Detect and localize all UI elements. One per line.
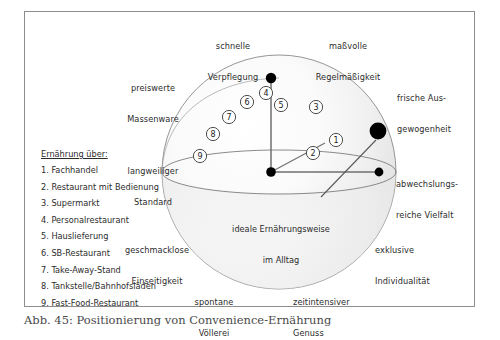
marker-9-label: 9 [197,152,202,161]
axis-label-line: frische Aus- [397,93,477,103]
ideal-position-label-line: ideale Ernährungsweise [201,224,361,234]
marker-2[interactable]: 2 [306,146,319,159]
axis-label-exklusive-individualitaet: exklusive Individualität [375,224,463,307]
marker-7[interactable]: 7 [222,110,235,123]
figure-frame: 1 2 3 4 5 6 7 8 [24,11,475,307]
axis-label-line: exklusive [375,245,463,255]
axis-label-line: Verpflegung [185,72,281,82]
legend-item-2: 2. Restaurant mit Bedienung [41,183,191,192]
legend-item-1: 1. Fachhandel [41,166,191,175]
right-axis-dot [375,168,384,177]
legend-title: Ernährung über: [41,149,191,159]
marker-1-label: 1 [333,136,338,145]
axis-label-massvolle-regelmaessigkeit: maßvolle Regelmäßigkeit [293,20,403,103]
axis-label-preiswerte-massenware: preiswerte Massenware [111,62,195,145]
legend-item-7: 7. Take-Away-Stand [41,266,191,275]
legend-item-8: 8. Tankstelle/Bahnhofsläden [41,282,191,291]
legend-item-5: 5. Hauslieferung [41,232,191,241]
marker-9[interactable]: 9 [193,149,206,162]
ideal-position-label: ideale Ernährungsweise im Alltag [201,203,361,286]
axis-label-line: schnelle [185,41,281,51]
ideal-position-label-line: im Alltag [201,255,361,265]
legend-item-9: 9. Fast-Food-Restaurant [41,299,191,308]
axis-label-line: preiswerte [111,83,195,93]
origin-dot [266,167,276,177]
legend: Ernährung über: 1. Fachhandel 2. Restaur… [41,149,191,315]
axis-label-line: Regelmäßigkeit [293,72,403,82]
axis-label-line: zeitintensiver [293,297,383,307]
axis-label-line: reiche Vielfalt [396,210,478,220]
legend-item-4: 4. Personalrestaurant [41,216,191,225]
marker-2-label: 2 [310,149,315,158]
axis-label-line: maßvolle [293,41,403,51]
axis-label-line: abwechslungs- [396,179,478,189]
axis-label-line: Genuss [293,328,383,338]
axis-label-line: Völlerei [175,328,253,338]
axis-label-frische-ausgewogenheit: frische Aus- gewogenheit [397,72,477,155]
axis-label-line: Individualität [375,276,463,286]
marker-8[interactable]: 8 [206,127,219,140]
legend-item-6: 6. SB-Restaurant [41,249,191,258]
legend-item-3: 3. Supermarkt [41,199,191,208]
marker-8-label: 8 [210,130,215,139]
figure-caption: Abb. 45: Positionierung von Convenience-… [24,313,331,327]
marker-1[interactable]: 1 [329,133,342,146]
marker-7-label: 7 [226,113,231,122]
axis-label-line: gewogenheit [397,124,477,134]
axis-label-line: Massenware [111,114,195,124]
marker-3-label: 3 [313,103,318,112]
axis-label-schnelle-verpflegung: schnelle Verpflegung [185,20,281,103]
ideal-position-dot [370,123,387,140]
